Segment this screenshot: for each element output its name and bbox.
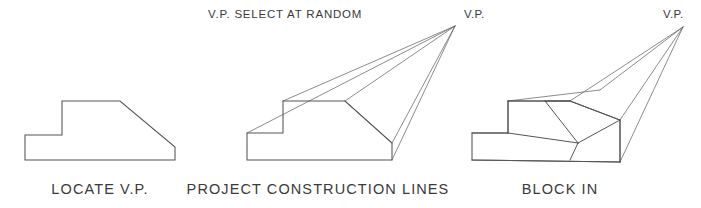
construction-ray <box>508 90 600 101</box>
perspective-sequence-figure: LOCATE V.P. V.P. V.P. SELECT AT RANDOM P… <box>0 0 701 208</box>
profile-outline-step3 <box>472 101 620 162</box>
vanishing-point-label-step2: V.P. <box>464 8 484 20</box>
construction-ray <box>392 26 455 160</box>
panel-block-in: V.P. BLOCK IN <box>472 8 683 197</box>
vanishing-point-label-step3: V.P. <box>663 8 683 20</box>
construction-ray <box>620 27 683 120</box>
construction-ray <box>392 26 455 143</box>
construction-ray <box>283 26 455 101</box>
block-edge <box>545 101 578 143</box>
construction-ray <box>600 27 683 90</box>
panel-project-construction-lines: V.P. V.P. SELECT AT RANDOM PROJECT CONST… <box>187 8 485 197</box>
construction-ray <box>345 26 455 101</box>
block-edge <box>508 133 578 143</box>
caption-locate-vp: LOCATE V.P. <box>51 181 148 197</box>
vp-select-note: V.P. SELECT AT RANDOM <box>208 8 362 20</box>
caption-project-construction-lines: PROJECT CONSTRUCTION LINES <box>187 181 450 197</box>
construction-ray <box>247 26 455 133</box>
profile-outline-step1 <box>25 101 175 160</box>
block-edge <box>578 120 620 143</box>
panel-locate-vp: LOCATE V.P. <box>25 101 175 197</box>
caption-block-in: BLOCK IN <box>522 181 599 197</box>
block-edge <box>570 143 578 160</box>
profile-outline-step2 <box>247 101 392 160</box>
